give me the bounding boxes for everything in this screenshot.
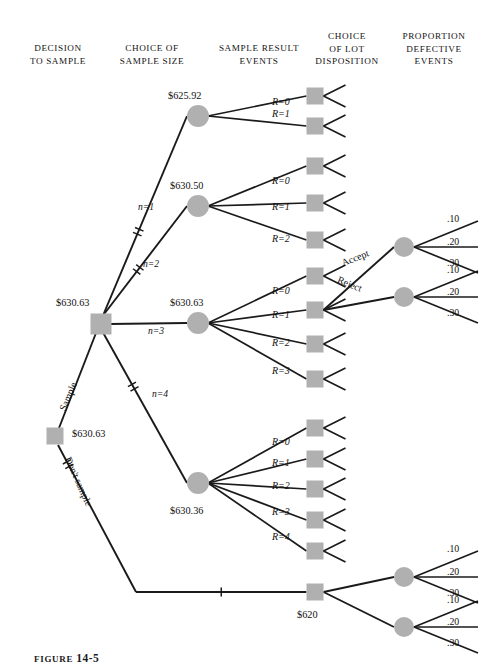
edge-n3-group-r3 [208,323,307,379]
edge-prob-reject-bottom-3 [414,627,478,653]
stub-reject-n2-group-r0 [324,166,346,177]
result-label-n1-r0: R=0 [272,96,290,107]
figure-caption: FIGURE 14-5 [34,652,99,664]
result-label-n4-r2: R=2 [272,480,290,491]
chance-node-n2[interactable] [187,195,209,217]
stub-accept-n3-group-r3 [324,368,346,379]
stub-accept-n3-group-r2 [324,333,346,344]
stub-reject-n2-group-r2 [324,240,346,251]
stub-accept-n4-group-r4 [324,540,346,551]
figure-caption-prefix: FIGURE [34,654,73,664]
column-header-choice-of-sample-size: CHOICE OF SAMPLE SIZE [104,42,200,67]
chance-node-accept-top[interactable] [394,237,414,257]
stub-reject-n3-group-r1 [324,310,346,321]
chance-node-n4[interactable] [187,472,209,494]
chance-node-accept-bottom[interactable] [394,567,414,587]
lot-disposition-square-n2-group-r0[interactable] [307,158,324,175]
edge-n1-group-r1 [208,116,307,126]
stub-accept-n4-group-r2 [324,478,346,489]
edge-prob-reject-top-3 [414,297,478,323]
lot-disposition-square-n3-group-r1[interactable] [307,302,324,319]
edge-n2-group-r2 [208,206,307,240]
result-label-n4-r4: R=4 [272,531,290,542]
result-label-n4-r1: R=1 [272,457,290,468]
result-label-n4-r3: R=3 [272,506,290,517]
lot-disposition-square-n4-group-r0[interactable] [307,420,324,437]
chance-node-n1[interactable] [187,105,209,127]
result-label-n2-r2: R=2 [272,233,290,244]
edge-n2-group-r1 [208,203,307,206]
edge-accept-bottom [324,577,395,592]
stub-accept-n4-group-r0 [324,417,346,428]
stub-reject-n4-group-r0 [324,428,346,439]
column-header-decision-to-sample: DECISION TO SAMPLE [14,42,102,67]
stub-accept-n2-group-r0 [324,155,346,166]
chance-node-n3[interactable] [187,312,209,334]
result-label-n1-r1: R=1 [272,108,290,119]
stub-accept-n2-group-r2 [324,229,346,240]
stub-reject-n3-group-r2 [324,344,346,355]
lot-disposition-square-n4-group-r3[interactable] [307,512,324,529]
sample-size-decision-square[interactable] [91,314,112,335]
probability-bottom-reject-2: .20 [447,616,459,627]
decision-tree-figure: DECISION TO SAMPLE CHOICE OF SAMPLE SIZE… [0,0,483,672]
result-label-n3-r1: R=1 [272,309,290,320]
edge-prob-reject-top-1 [414,271,478,297]
lot-disposition-square-n3-group-r3[interactable] [307,371,324,388]
value-no-sample-decision: $620 [297,609,318,620]
lot-disposition-square-n1-group-r0[interactable] [307,88,324,105]
edge-n4-group-r1 [208,459,307,483]
edge-n4-group-r4 [208,483,307,551]
probability-bottom-reject-3: .30 [447,637,459,648]
lot-disposition-square-n3-group-r2[interactable] [307,336,324,353]
stub-accept-n1-group-r0 [324,85,346,96]
result-label-n2-r1: R=1 [272,201,290,212]
lot-disposition-square-n2-group-r1[interactable] [307,195,324,212]
edge-prob-accept-bottom-3 [414,577,478,603]
edge-sample-size-n1 [103,116,187,316]
chance-node-reject-bottom[interactable] [394,617,414,637]
stub-reject-n3-group-r3 [324,379,346,390]
stub-reject-n4-group-r1 [324,459,346,470]
stub-reject-n1-group-r1 [324,126,346,137]
edge-reject-bottom [324,592,395,627]
column-header-proportion-defective-events: PROPORTION DEFECTIVE EVENTS [388,30,480,68]
result-label-n3-r0: R=0 [272,285,290,296]
root-decision-square[interactable] [47,428,64,445]
stub-accept-n1-group-r1 [324,115,346,126]
edge-prob-accept-bottom-1 [414,551,478,577]
value-chance-node-n1: $625.92 [168,90,201,101]
edge-n3-group-r2 [208,323,307,344]
no-sample-decision-square[interactable] [307,584,324,601]
edge-sample-size-n3 [110,323,188,324]
edge-root-to-sample [59,333,96,428]
probability-top-accept-1: .10 [447,213,459,224]
stub-accept-n4-group-r1 [324,448,346,459]
branch-label-n3: n=3 [148,325,164,336]
lot-disposition-square-n3-group-r0[interactable] [307,268,324,285]
edge-reject-top [324,297,395,310]
chance-node-reject-top[interactable] [394,287,414,307]
lot-disposition-square-n4-group-r4[interactable] [307,543,324,560]
probability-top-accept-2: .20 [447,236,459,247]
decision-tree-canvas [0,0,483,672]
probability-bottom-reject-1: .10 [447,594,459,605]
edge-sample-size-n4 [103,333,187,484]
lot-disposition-square-n2-group-r2[interactable] [307,232,324,249]
probability-top-reject-3: .30 [447,307,459,318]
lot-disposition-square-n4-group-r1[interactable] [307,451,324,468]
stub-reject-n4-group-r4 [324,551,346,562]
probability-top-reject-1: .10 [447,264,459,275]
stub-reject-n4-group-r3 [324,520,346,531]
column-header-choice-of-lot-disposition: CHOICE OF LOT DISPOSITION [305,30,389,68]
probability-top-reject-2: .20 [447,286,459,297]
result-label-n4-r0: R=0 [272,436,290,447]
result-label-n3-r3: R=3 [272,365,290,376]
branch-label-n4: n=4 [152,388,168,399]
lot-disposition-square-n4-group-r2[interactable] [307,481,324,498]
column-header-sample-result-events: SAMPLE RESULT EVENTS [204,42,314,67]
stub-reject-n4-group-r2 [324,489,346,500]
value-chance-node-n3: $630.63 [170,297,203,308]
lot-disposition-square-n1-group-r1[interactable] [307,118,324,135]
value-chance-node-n2: $630.50 [170,180,203,191]
